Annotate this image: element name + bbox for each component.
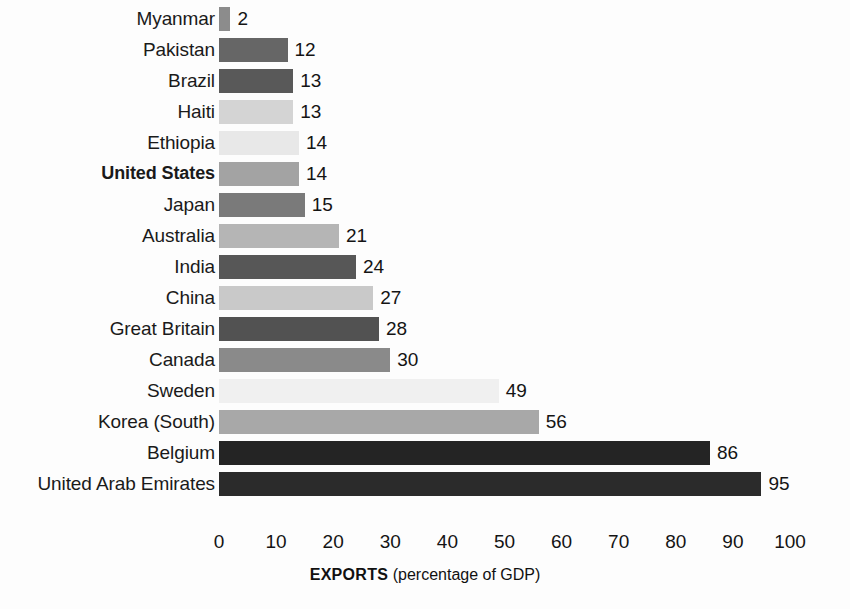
- bar-track: 2: [219, 7, 230, 31]
- bar-category-label: United States: [101, 161, 215, 192]
- x-axis-tick-label: 90: [722, 531, 743, 553]
- bar-value-label: 13: [293, 69, 321, 93]
- x-axis-tick-label: 60: [551, 531, 572, 553]
- x-axis-tick-label: 40: [437, 531, 458, 553]
- bar-row: Pakistan12: [0, 37, 850, 68]
- bar: [219, 7, 230, 31]
- bar: [219, 162, 299, 186]
- bar-category-label: Belgium: [147, 440, 215, 471]
- bar-row: Myanmar2: [0, 6, 850, 37]
- x-axis-caption-sub: (percentage of GDP): [388, 566, 540, 583]
- bar-category-label: United Arab Emirates: [37, 471, 215, 502]
- bar-track: 13: [219, 69, 293, 93]
- bar-row: Australia21: [0, 223, 850, 254]
- bar-row: China27: [0, 285, 850, 316]
- bar-track: 95: [219, 472, 761, 496]
- chart-rows: Myanmar2Pakistan12Brazil13Haiti13Ethiopi…: [0, 6, 850, 502]
- x-axis-tick-label: 70: [608, 531, 629, 553]
- bar-value-label: 28: [379, 317, 407, 341]
- x-axis-tick-label: 30: [380, 531, 401, 553]
- bar-category-label: Korea (South): [98, 409, 215, 440]
- bar-row: Brazil13: [0, 68, 850, 99]
- bar-category-label: Haiti: [177, 99, 215, 130]
- bar: [219, 286, 373, 310]
- bar: [219, 224, 339, 248]
- bar-track: 24: [219, 255, 356, 279]
- bar-chart: Myanmar2Pakistan12Brazil13Haiti13Ethiopi…: [0, 0, 850, 609]
- bar-track: 56: [219, 410, 539, 434]
- bar-category-label: China: [166, 285, 215, 316]
- x-axis-tick-label: 100: [774, 531, 806, 553]
- x-axis-tick-label: 50: [494, 531, 515, 553]
- bar: [219, 317, 379, 341]
- x-axis-caption: EXPORTS (percentage of GDP): [0, 566, 850, 584]
- bar-row: India24: [0, 254, 850, 285]
- bar-category-label: Pakistan: [143, 37, 215, 68]
- bar-value-label: 27: [373, 286, 401, 310]
- bar-row: Korea (South)56: [0, 409, 850, 440]
- bar-value-label: 15: [305, 193, 333, 217]
- bar-value-label: 86: [710, 441, 738, 465]
- bar-category-label: Brazil: [168, 68, 215, 99]
- bar-category-label: Sweden: [147, 378, 215, 409]
- bar-track: 30: [219, 348, 390, 372]
- bar-track: 28: [219, 317, 379, 341]
- bar-track: 27: [219, 286, 373, 310]
- bar-category-label: Ethiopia: [147, 130, 215, 161]
- bar-row: Belgium86: [0, 440, 850, 471]
- bar-row: United Arab Emirates95: [0, 471, 850, 502]
- bar: [219, 255, 356, 279]
- bar: [219, 38, 288, 62]
- bar-value-label: 56: [539, 410, 567, 434]
- bar: [219, 100, 293, 124]
- x-axis-tick-label: 10: [266, 531, 287, 553]
- x-axis: 0102030405060708090100: [0, 531, 850, 561]
- bar-category-label: Australia: [142, 223, 215, 254]
- bar: [219, 193, 305, 217]
- bar-value-label: 14: [299, 131, 327, 155]
- x-axis-tick-label: 20: [323, 531, 344, 553]
- bar-row: Sweden49: [0, 378, 850, 409]
- bar-row: Canada30: [0, 347, 850, 378]
- x-axis-tick-label: 80: [665, 531, 686, 553]
- bar-track: 15: [219, 193, 305, 217]
- bar-value-label: 95: [761, 472, 789, 496]
- bar-category-label: Myanmar: [137, 6, 215, 37]
- bar-row: Great Britain28: [0, 316, 850, 347]
- x-axis-tick-label: 0: [214, 531, 225, 553]
- bar-value-label: 30: [390, 348, 418, 372]
- bar: [219, 472, 761, 496]
- bar-category-label: Japan: [164, 192, 215, 223]
- bar-value-label: 21: [339, 224, 367, 248]
- bar-row: Ethiopia14: [0, 130, 850, 161]
- bar-category-label: India: [174, 254, 215, 285]
- bar-row: Japan15: [0, 192, 850, 223]
- bar: [219, 69, 293, 93]
- bar: [219, 410, 539, 434]
- bar-track: 14: [219, 131, 299, 155]
- bar-value-label: 49: [499, 379, 527, 403]
- bar-value-label: 13: [293, 100, 321, 124]
- bar-value-label: 12: [288, 38, 316, 62]
- bar-category-label: Great Britain: [110, 316, 215, 347]
- x-axis-caption-main: EXPORTS: [310, 566, 389, 583]
- bar: [219, 131, 299, 155]
- bar: [219, 348, 390, 372]
- bar-track: 13: [219, 100, 293, 124]
- bar: [219, 441, 710, 465]
- bar-track: 86: [219, 441, 710, 465]
- bar-value-label: 24: [356, 255, 384, 279]
- bar-track: 49: [219, 379, 499, 403]
- bar-track: 12: [219, 38, 288, 62]
- bar-track: 14: [219, 162, 299, 186]
- bar-value-label: 2: [230, 7, 248, 31]
- bar-category-label: Canada: [149, 347, 215, 378]
- bar-track: 21: [219, 224, 339, 248]
- bar-row: Haiti13: [0, 99, 850, 130]
- bar: [219, 379, 499, 403]
- bar-value-label: 14: [299, 162, 327, 186]
- bar-row: United States14: [0, 161, 850, 192]
